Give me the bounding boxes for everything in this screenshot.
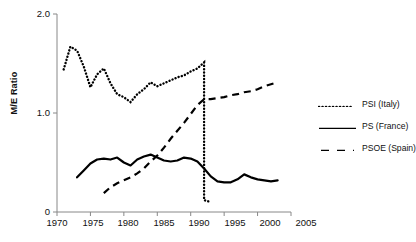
- legend-label-psoe: PSOE (Spain): [362, 143, 416, 153]
- axes: [53, 14, 291, 216]
- legend-swatch-solid: [318, 127, 358, 129]
- legend-label-psi: PSI (Italy): [362, 99, 400, 109]
- series-lines: [64, 47, 278, 202]
- legend-swatch-dashed: [318, 149, 358, 151]
- legend-label-ps: PS (France): [362, 121, 408, 131]
- legend-swatch-dotted: [318, 105, 358, 107]
